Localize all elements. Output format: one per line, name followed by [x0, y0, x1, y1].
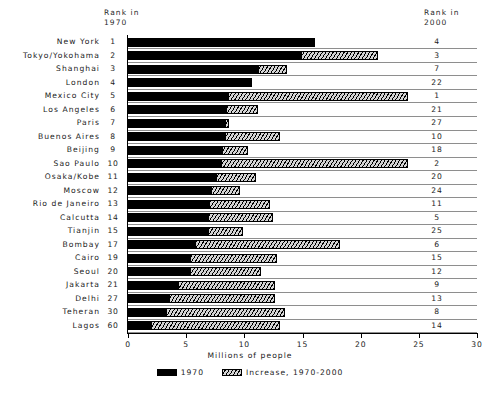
table-row: Sao Paulo102 — [0, 158, 500, 172]
bar-segment-increase — [190, 267, 261, 276]
bar-segment-1970 — [128, 254, 190, 263]
x-axis-tick — [361, 333, 362, 338]
city-label: Sao Paulo — [0, 159, 100, 168]
stacked-bar — [128, 51, 378, 60]
city-label: Delhi — [0, 294, 100, 303]
rank-2000-value: 25 — [424, 226, 450, 235]
rank-2000-value: 18 — [424, 145, 450, 154]
table-row: Bombay176 — [0, 239, 500, 253]
rank-2000-value: 13 — [424, 294, 450, 303]
city-label: Shanghai — [0, 64, 100, 73]
bar-segment-increase — [226, 105, 259, 114]
rank-1970-value: 2 — [104, 51, 122, 60]
bar-segment-1970 — [128, 186, 211, 195]
stacked-bar — [128, 281, 275, 290]
bar-segment-increase — [169, 294, 275, 303]
bar-segment-increase — [190, 254, 277, 263]
x-axis-tick — [128, 333, 129, 338]
rank-1970-value: 13 — [104, 199, 122, 208]
bar-segment-1970 — [128, 321, 151, 330]
bar-segment-increase — [225, 119, 230, 128]
table-row: New York14 — [0, 36, 500, 50]
rank-2000-value: 3 — [424, 51, 450, 60]
rank-2000-value: 2 — [424, 159, 450, 168]
bar-segment-1970 — [128, 227, 208, 236]
legend-label: 1970 — [181, 368, 204, 377]
rank-2000-value: 20 — [424, 172, 450, 181]
x-axis-tick — [244, 333, 245, 338]
legend-swatch-increase-icon — [222, 369, 242, 376]
bar-segment-increase — [151, 321, 280, 330]
table-row: Lagos6014 — [0, 320, 500, 334]
bar-segment-1970 — [128, 173, 216, 182]
table-row: Shanghai37 — [0, 63, 500, 77]
bar-segment-increase — [211, 186, 240, 195]
table-row: Tokyo/Yokohama23 — [0, 50, 500, 64]
rank-1970-value: 30 — [104, 307, 122, 316]
x-axis-tick — [186, 333, 187, 338]
bar-segment-1970 — [128, 146, 222, 155]
rank-1970-value: 14 — [104, 213, 122, 222]
x-axis-tick-label: 0 — [113, 340, 143, 349]
table-row: Moscow1224 — [0, 185, 500, 199]
bar-segment-1970 — [128, 240, 195, 249]
rank-1970-value: 27 — [104, 294, 122, 303]
rank-2000-value: 12 — [424, 267, 450, 276]
rank-1970-value: 5 — [104, 91, 122, 100]
rank-1970-value: 9 — [104, 145, 122, 154]
bar-segment-1970 — [128, 294, 169, 303]
bar-segment-increase — [166, 308, 285, 317]
rank-1970-value: 19 — [104, 253, 122, 262]
stacked-bar — [128, 200, 270, 209]
rank-1970-value: 17 — [104, 240, 122, 249]
city-label: Calcutta — [0, 213, 100, 222]
x-axis-tick-label: 5 — [171, 340, 201, 349]
stacked-bar — [128, 119, 229, 128]
city-label: Rio de Janeiro — [0, 199, 100, 208]
x-axis-title: Millions of people — [0, 351, 500, 360]
city-label: Cairo — [0, 253, 100, 262]
city-label: Lagos — [0, 321, 100, 330]
table-row: London422 — [0, 77, 500, 91]
table-row: Mexico City51 — [0, 90, 500, 104]
city-label: London — [0, 78, 100, 87]
stacked-bar — [128, 78, 252, 87]
rank-2000-value: 24 — [424, 186, 450, 195]
rank-1970-value: 7 — [104, 118, 122, 127]
rank-2000-value: 11 — [424, 199, 450, 208]
bar-segment-increase — [301, 51, 378, 60]
city-label: Moscow — [0, 186, 100, 195]
stacked-bar — [128, 186, 240, 195]
stacked-bar — [128, 267, 261, 276]
city-label: Tianjin — [0, 226, 100, 235]
stacked-bar — [128, 321, 280, 330]
bar-segment-1970 — [128, 281, 178, 290]
rank-1970-value: 12 — [104, 186, 122, 195]
bar-segment-increase — [209, 200, 269, 209]
bar-segment-increase — [216, 173, 256, 182]
rank-2000-value: 1 — [424, 91, 450, 100]
bar-segment-1970 — [128, 92, 228, 101]
city-label: Jakarta — [0, 280, 100, 289]
rank-2000-column-header: Rank in 2000 — [424, 8, 460, 28]
rank-2000-value: 27 — [424, 118, 450, 127]
table-row: Teheran308 — [0, 306, 500, 320]
x-axis-tick-label: 20 — [346, 340, 376, 349]
rank-1970-value: 60 — [104, 321, 122, 330]
bar-segment-1970 — [128, 132, 225, 141]
chart-legend: 1970Increase, 1970-2000 — [0, 368, 500, 377]
bar-segment-increase — [222, 146, 248, 155]
rank-1970-column-header: Rank in 1970 — [104, 8, 140, 28]
city-label: Buenos Aires — [0, 132, 100, 141]
bar-segment-1970 — [128, 51, 301, 60]
stacked-bar — [128, 173, 256, 182]
table-row: Beijing918 — [0, 144, 500, 158]
stacked-bar — [128, 213, 273, 222]
table-row: Calcutta145 — [0, 212, 500, 226]
x-axis-tick-label: 25 — [404, 340, 434, 349]
rank-1970-value: 21 — [104, 280, 122, 289]
rank-2000-value: 22 — [424, 78, 450, 87]
table-row: Cairo1915 — [0, 252, 500, 266]
city-label: Beijing — [0, 145, 100, 154]
table-row: Delhi2713 — [0, 293, 500, 307]
